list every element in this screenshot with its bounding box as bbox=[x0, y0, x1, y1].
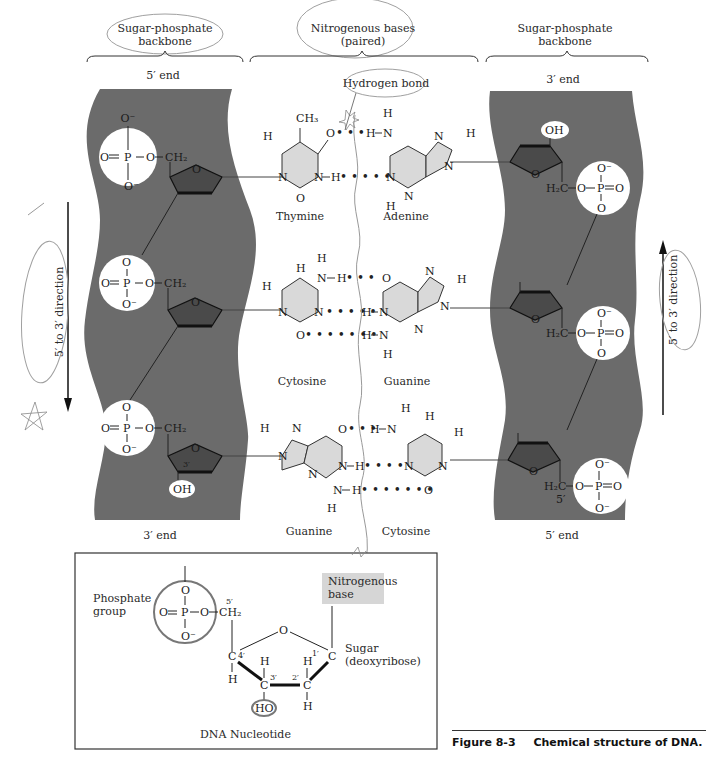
svg-text:P: P bbox=[123, 277, 131, 290]
svg-text:H: H bbox=[362, 306, 372, 319]
svg-text:H: H bbox=[370, 423, 380, 436]
svg-text:O: O bbox=[424, 484, 433, 497]
base-label-thymine: Thymine bbox=[276, 210, 324, 223]
svg-text:O: O bbox=[192, 163, 201, 176]
svg-text:H: H bbox=[260, 655, 270, 668]
svg-text:H: H bbox=[228, 673, 238, 686]
right-strand-top-end: 3′ end bbox=[546, 73, 580, 86]
svg-text:1′: 1′ bbox=[312, 649, 319, 658]
svg-text:N: N bbox=[434, 130, 444, 143]
svg-text:O: O bbox=[191, 296, 200, 309]
svg-text:O: O bbox=[279, 624, 288, 637]
svg-text:H: H bbox=[262, 280, 272, 293]
svg-text:N: N bbox=[317, 272, 327, 285]
svg-text:N: N bbox=[387, 423, 397, 436]
figure-caption: Figure 8-3 Chemical structure of DNA. bbox=[452, 736, 702, 749]
svg-text:O: O bbox=[326, 127, 335, 140]
svg-text:N: N bbox=[379, 329, 389, 342]
phosphate-group-label-line2: group bbox=[93, 605, 126, 618]
svg-text:C: C bbox=[303, 679, 311, 692]
svg-text:O: O bbox=[597, 202, 606, 215]
svg-text:CH₃: CH₃ bbox=[296, 112, 318, 125]
svg-text:O⁻: O⁻ bbox=[181, 630, 196, 643]
svg-text:P: P bbox=[124, 151, 132, 164]
inset-title: DNA Nucleotide bbox=[200, 728, 291, 741]
svg-text:N: N bbox=[379, 306, 389, 319]
left-direction-label: 5′ to 3′ direction bbox=[53, 267, 66, 358]
svg-text:H: H bbox=[383, 107, 393, 120]
left-backbone-label-line2: backbone bbox=[138, 35, 192, 48]
svg-text:O: O bbox=[575, 480, 584, 493]
svg-text:N: N bbox=[308, 468, 318, 481]
svg-text:C: C bbox=[260, 679, 268, 692]
svg-text:H: H bbox=[466, 127, 476, 140]
svg-text:OH: OH bbox=[545, 124, 564, 137]
svg-text:O: O bbox=[100, 151, 109, 164]
svg-text:CH₂: CH₂ bbox=[165, 151, 187, 164]
svg-text:3′: 3′ bbox=[183, 460, 190, 469]
svg-text:N: N bbox=[338, 460, 348, 473]
svg-text:H: H bbox=[296, 262, 306, 275]
svg-text:H: H bbox=[303, 655, 313, 668]
svg-text:H: H bbox=[303, 700, 313, 713]
svg-text:N: N bbox=[333, 484, 343, 497]
brace-icon bbox=[486, 51, 648, 62]
left-strand-top-end: 5′ end bbox=[146, 69, 180, 82]
svg-text:H: H bbox=[317, 252, 327, 265]
svg-text:O⁻: O⁻ bbox=[122, 443, 137, 456]
svg-text:O: O bbox=[296, 329, 305, 342]
svg-text:4′: 4′ bbox=[238, 651, 245, 660]
base-pair-thymine-adenine: N N CH₃ H O O H • • • • • • • • H N H N … bbox=[263, 107, 476, 223]
svg-text:N: N bbox=[404, 190, 414, 203]
svg-text:HO: HO bbox=[255, 702, 274, 715]
svg-text:• • • • •: • • • • • bbox=[340, 170, 391, 184]
base-label-cytosine: Cytosine bbox=[278, 375, 326, 388]
svg-text:O: O bbox=[191, 442, 200, 455]
svg-text:5′: 5′ bbox=[556, 493, 566, 506]
svg-text:H: H bbox=[263, 130, 273, 143]
base-label-adenine: Adenine bbox=[382, 210, 429, 223]
svg-text:C: C bbox=[228, 650, 236, 663]
svg-text:N: N bbox=[438, 460, 448, 473]
bases-label-line2: (paired) bbox=[341, 35, 386, 48]
base-label-guanine-2: Guanine bbox=[286, 525, 333, 538]
base-pair-guanine-cytosine: N N H N N O • • • H N H H • • • • • N H … bbox=[260, 402, 464, 538]
svg-text:N: N bbox=[440, 300, 450, 313]
svg-text:O⁻: O⁻ bbox=[595, 502, 610, 515]
svg-text:• • •: • • • bbox=[346, 271, 375, 285]
svg-text:CH₂: CH₂ bbox=[219, 606, 241, 619]
svg-text:O⁻: O⁻ bbox=[122, 298, 137, 311]
base-pair-cytosine-guanine: N N H H N H H • • • O • • • • • H O • • … bbox=[262, 252, 467, 388]
brace-icon bbox=[87, 51, 243, 62]
svg-text:H: H bbox=[362, 329, 372, 342]
svg-text:O⁻: O⁻ bbox=[124, 180, 139, 193]
header-right-backbone: Sugar-phosphate backbone bbox=[486, 22, 648, 62]
svg-text:O: O bbox=[597, 347, 606, 360]
right-backbone-label-line2: backbone bbox=[538, 35, 592, 48]
svg-text:H: H bbox=[327, 502, 337, 515]
svg-text:2′: 2′ bbox=[292, 673, 299, 682]
svg-text:P: P bbox=[597, 327, 605, 340]
right-direction-label: 5′ to 3′ direction bbox=[667, 255, 680, 346]
svg-text:O: O bbox=[577, 327, 586, 340]
svg-text:H: H bbox=[260, 422, 270, 435]
svg-text:O: O bbox=[382, 272, 391, 285]
svg-text:H: H bbox=[454, 426, 464, 439]
svg-text:O⁻: O⁻ bbox=[597, 162, 612, 175]
svg-text:O: O bbox=[613, 480, 622, 493]
svg-text:• • • • • • •: • • • • • • • bbox=[361, 483, 433, 497]
caption-rule bbox=[452, 730, 706, 731]
figure-caption-text: Chemical structure of DNA. bbox=[533, 736, 702, 749]
base-label-guanine: Guanine bbox=[384, 375, 431, 388]
svg-text:N: N bbox=[404, 460, 414, 473]
svg-text:H: H bbox=[366, 127, 376, 140]
svg-text:P: P bbox=[595, 480, 603, 493]
svg-text:P: P bbox=[181, 606, 189, 619]
svg-text:CH₂: CH₂ bbox=[164, 422, 186, 435]
svg-text:O⁻: O⁻ bbox=[121, 112, 136, 125]
svg-text:N: N bbox=[278, 450, 288, 463]
phosphate-group-label-line1: Phosphate bbox=[93, 592, 151, 605]
base-label-cytosine-2: Cytosine bbox=[382, 525, 430, 538]
svg-text:O⁻: O⁻ bbox=[597, 307, 612, 320]
header-bases: Nitrogenous bases (paired) bbox=[250, 0, 478, 62]
